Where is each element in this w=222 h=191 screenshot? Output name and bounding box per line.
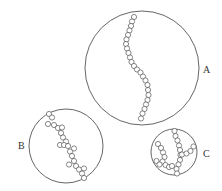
label-c: C	[203, 149, 210, 159]
bead	[49, 115, 54, 120]
bead	[140, 111, 145, 116]
bead	[146, 92, 151, 97]
bead	[191, 144, 196, 149]
diagram-canvas	[0, 0, 222, 191]
cell-group-b	[29, 109, 103, 183]
label-b: B	[18, 141, 25, 151]
bead	[169, 163, 174, 168]
bead	[157, 162, 162, 167]
bead	[69, 153, 74, 158]
cell-group-c	[151, 128, 197, 176]
bead	[59, 125, 64, 130]
label-a: A	[203, 65, 210, 75]
bead	[145, 87, 150, 92]
bead	[174, 171, 179, 176]
bead	[81, 175, 86, 180]
bead	[81, 166, 86, 171]
bead	[66, 162, 71, 167]
bead	[172, 128, 177, 133]
bead	[65, 143, 70, 148]
bead	[138, 116, 143, 121]
bead	[145, 82, 150, 87]
cell-group-a	[85, 11, 199, 125]
circles-layer	[29, 11, 199, 183]
bead	[45, 121, 50, 126]
bead	[71, 158, 76, 163]
bead	[175, 138, 180, 143]
